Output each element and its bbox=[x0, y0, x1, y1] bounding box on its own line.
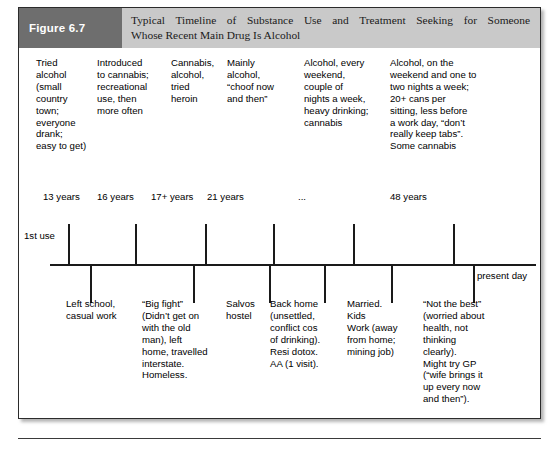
substance-use-column-6: Alcohol, on the weekend and one to two n… bbox=[390, 57, 490, 152]
figure-title: Typical Timeline of Substance Use and Tr… bbox=[122, 8, 540, 48]
timeline-tick-up-3 bbox=[205, 224, 207, 265]
timeline-axis-area: 1st use present day bbox=[19, 208, 540, 303]
age-marker-2: 16 years bbox=[97, 191, 134, 203]
timeline-tick-up-6 bbox=[453, 224, 455, 265]
first-use-label: 1st use bbox=[24, 230, 55, 241]
life-event-column-3: Salvos hostel bbox=[226, 298, 268, 322]
age-marker-5: ... bbox=[298, 191, 306, 203]
age-marker-4: 21 years bbox=[207, 191, 244, 203]
figure-box: Figure 6.7 Typical Timeline of Substance… bbox=[18, 7, 541, 419]
substance-use-columns: Tried alcohol (small country town; every… bbox=[19, 48, 540, 188]
age-marker-3: 17+ years bbox=[151, 191, 193, 203]
timeline-tick-up-1 bbox=[68, 224, 70, 265]
substance-use-column-5: Alcohol, every weekend, couple of nights… bbox=[304, 57, 384, 128]
life-event-column-1: Left school, casual work bbox=[66, 298, 134, 322]
life-event-column-2: “Big fight” (Didn’t get on with the old … bbox=[142, 298, 220, 381]
substance-use-column-2: Introduced to cannabis; recreational use… bbox=[97, 57, 165, 117]
age-marker-row: 13 years 16 years 17+ years 21 years ...… bbox=[19, 191, 540, 207]
figure-number-label: Figure 6.7 bbox=[19, 8, 122, 48]
timeline-axis-line bbox=[50, 264, 536, 266]
footer-divider bbox=[18, 438, 541, 439]
substance-use-column-4: Mainly alcohol, “choof now and then” bbox=[227, 57, 291, 105]
timeline-tick-up-4 bbox=[273, 224, 275, 265]
present-day-label: present day bbox=[477, 270, 527, 281]
life-event-column-4: Back home (unsettled, conflict cos of dr… bbox=[270, 298, 342, 369]
timeline-tick-up-5 bbox=[353, 224, 355, 265]
figure-title-line-1: Typical Timeline of Substance Use and Tr… bbox=[131, 13, 530, 28]
life-event-column-5: Married. Kids Work (away from home; mini… bbox=[347, 298, 419, 358]
figure-timeline: Figure 6.7 Typical Timeline of Substance… bbox=[0, 0, 560, 460]
substance-use-column-3: Cannabis, alcohol, tried heroin bbox=[171, 57, 233, 105]
timeline-tick-up-2 bbox=[135, 224, 137, 265]
figure-body: Tried alcohol (small country town; every… bbox=[19, 48, 540, 418]
age-marker-1: 13 years bbox=[43, 191, 80, 203]
figure-title-line-2: Whose Recent Main Drug Is Alcohol bbox=[131, 28, 530, 43]
life-event-column-6: “Not the best” (worried about health, no… bbox=[423, 298, 509, 405]
age-marker-6: 48 years bbox=[390, 191, 427, 203]
life-event-columns: Left school, casual work “Big fight” (Di… bbox=[19, 298, 540, 418]
figure-header: Figure 6.7 Typical Timeline of Substance… bbox=[19, 8, 540, 48]
substance-use-column-1: Tried alcohol (small country town; every… bbox=[36, 57, 96, 152]
